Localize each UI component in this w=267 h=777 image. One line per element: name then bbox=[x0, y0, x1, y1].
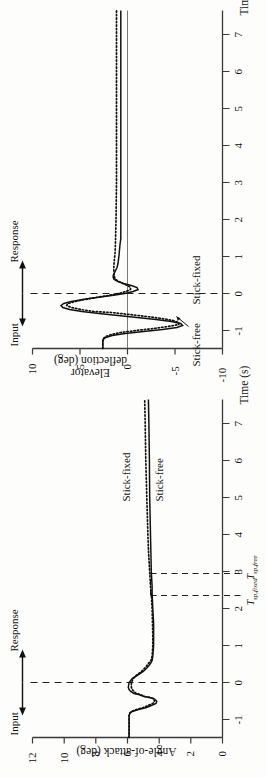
plot-angle-of-attack: 12 10 8 6 4 2 0 -1 0 1 2 3 4 5 6 7 Time … bbox=[0, 389, 267, 777]
tsp-free-sub: sp,free bbox=[250, 555, 258, 574]
elevator-xtick-neg1: -1 bbox=[232, 326, 243, 335]
aoa-input-response-arrows bbox=[19, 649, 26, 715]
elevator-xtick-4: 4 bbox=[232, 143, 243, 149]
aoa-response-label: Response bbox=[8, 609, 19, 651]
elevator-yaxis-title-line2: deflection (deg) bbox=[30, 354, 150, 366]
aoa-xtick-6: 6 bbox=[232, 458, 243, 464]
stick-free-callout-arrowhead bbox=[176, 316, 180, 321]
aoa-xtick-2: 2 bbox=[232, 606, 243, 612]
aoa-tsp-free-label: Tsp,free bbox=[245, 555, 258, 579]
elevator-xtick-1: 1 bbox=[232, 254, 243, 260]
aoa-ytick-0: 0 bbox=[216, 751, 227, 757]
aoa-xtick-0: 0 bbox=[232, 680, 243, 686]
aoa-tsp-fixed-label: Tsp,fixed bbox=[245, 578, 258, 605]
aoa-input-label: Input bbox=[8, 712, 19, 735]
aoa-xtick-neg1: -1 bbox=[232, 715, 243, 724]
aoa-ytick-12: 12 bbox=[26, 752, 37, 763]
elevator-xtick-0: 0 bbox=[232, 291, 243, 297]
elevator-xtick-2: 2 bbox=[232, 217, 243, 223]
tsp-fixed-sub: sp,fixed bbox=[250, 578, 258, 600]
aoa-yaxis-title-wrap: Angle-of-attack (deg) bbox=[46, 745, 206, 757]
figure-root: 10 5 0 -5 -10 -1 0 1 2 3 4 5 6 7 Time (s… bbox=[0, 0, 267, 777]
rotated-figure-canvas: 10 5 0 -5 -10 -1 0 1 2 3 4 5 6 7 Time (s… bbox=[0, 0, 267, 777]
elevator-xtick-5: 5 bbox=[232, 106, 243, 112]
curve-stick-free-elevator bbox=[66, 10, 178, 348]
aoa-xtick-5: 5 bbox=[232, 495, 243, 501]
aoa-stick-free-label: Stick-free bbox=[153, 458, 164, 501]
elevator-ytick-neg5: -5 bbox=[169, 366, 180, 375]
elevator-plot-svg bbox=[0, 0, 267, 388]
aoa-xtick-7: 7 bbox=[232, 421, 243, 427]
elevator-stick-free-label: Stick-free bbox=[190, 323, 201, 366]
aoa-stick-fixed-label: Stick-fixed bbox=[120, 452, 131, 501]
aoa-yaxis-title: Angle-of-attack (deg) bbox=[46, 745, 206, 757]
elevator-stick-fixed-label: Stick-fixed bbox=[190, 255, 201, 304]
curve-stick-fixed-elevator bbox=[61, 10, 183, 348]
aoa-plot-svg bbox=[0, 389, 267, 777]
elevator-xtick-6: 6 bbox=[232, 69, 243, 75]
aoa-xtick-1: 1 bbox=[232, 643, 243, 649]
aoa-xtick-3: 3 bbox=[232, 569, 243, 575]
elevator-input-response-arrows bbox=[19, 260, 26, 326]
aoa-xtick-4: 4 bbox=[232, 532, 243, 538]
tsp-free-main: T bbox=[244, 573, 255, 579]
elevator-ytick-neg10: -10 bbox=[216, 367, 227, 382]
curve-stick-free-aoa bbox=[129, 399, 154, 737]
elevator-xtick-7: 7 bbox=[232, 32, 243, 38]
elevator-yaxis-title: Elevator deflection (deg) bbox=[30, 354, 150, 378]
elevator-xaxis-title: Time (s) bbox=[238, 0, 250, 15]
elevator-xtick-3: 3 bbox=[232, 180, 243, 186]
tsp-fixed-main: T bbox=[244, 599, 255, 605]
aoa-xaxis-title: Time (s) bbox=[238, 365, 250, 404]
elevator-input-label: Input bbox=[8, 323, 19, 346]
plot-elevator-deflection: 10 5 0 -5 -10 -1 0 1 2 3 4 5 6 7 Time (s… bbox=[0, 0, 267, 388]
elevator-yaxis-title-line1: Elevator bbox=[30, 366, 150, 378]
elevator-response-label: Response bbox=[8, 220, 19, 262]
